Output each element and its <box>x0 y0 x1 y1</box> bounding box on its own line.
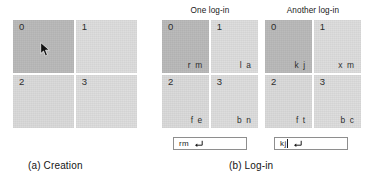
quadrant-code-label: b c <box>341 116 355 125</box>
subfigure-caption-a: (a) Creation <box>28 160 83 171</box>
panel-title-one-login: One log-in <box>162 6 258 15</box>
quadrant-cell-0[interactable]: 0 r m <box>162 20 209 73</box>
quadrant-cell-2[interactable]: 2 <box>13 75 74 128</box>
subfigure-caption-b: (b) Log-in <box>229 160 273 171</box>
quadrant-index-label: 0 <box>19 22 24 33</box>
quadrant-index-label: 3 <box>217 77 222 88</box>
login-input-one[interactable]: rm <box>173 137 247 150</box>
login-input-one-value: rm <box>179 140 189 148</box>
quadrant-cell-1[interactable]: 1 l a <box>211 20 258 73</box>
quadrant-cell-3[interactable]: 3 b n <box>211 75 258 128</box>
enter-key-icon <box>293 140 302 148</box>
quadrant-grid-one-login: 0 r m 1 l a 2 f e 3 b n <box>162 20 258 128</box>
quadrant-code-label: b n <box>237 116 252 125</box>
quadrant-cell-3[interactable]: 3 b c <box>314 75 361 128</box>
text-caret <box>287 139 288 148</box>
enter-key-icon <box>194 140 203 148</box>
quadrant-cell-1[interactable]: 1 <box>76 20 137 73</box>
quadrant-index-label: 1 <box>320 22 325 33</box>
quadrant-code-label: f t <box>296 116 306 125</box>
quadrant-code-label: x m <box>338 61 355 70</box>
quadrant-cell-3[interactable]: 3 <box>76 75 137 128</box>
quadrant-index-label: 2 <box>271 77 276 88</box>
quadrant-code-label: r m <box>188 61 203 70</box>
login-input-two-value: kj <box>280 140 287 148</box>
quadrant-cell-2[interactable]: 2 f t <box>265 75 312 128</box>
login-input-two[interactable]: kj <box>274 137 348 150</box>
quadrant-grid-another-login: 0 k j 1 x m 2 f t 3 b c <box>265 20 361 128</box>
quadrant-index-label: 1 <box>217 22 222 33</box>
quadrant-code-label: f e <box>191 116 204 125</box>
quadrant-index-label: 0 <box>271 22 276 33</box>
quadrant-code-label: k j <box>295 61 307 70</box>
mouse-pointer-icon <box>40 42 51 57</box>
quadrant-index-label: 3 <box>320 77 325 88</box>
quadrant-cell-0[interactable]: 0 k j <box>265 20 312 73</box>
quadrant-index-label: 0 <box>168 22 173 33</box>
quadrant-cell-1[interactable]: 1 x m <box>314 20 361 73</box>
quadrant-index-label: 1 <box>82 22 87 33</box>
quadrant-cell-2[interactable]: 2 f e <box>162 75 209 128</box>
panel-title-another-login: Another log-in <box>265 6 361 15</box>
quadrant-index-label: 3 <box>82 77 87 88</box>
quadrant-grid-creation: 0 1 2 3 <box>13 20 137 128</box>
quadrant-code-label: l a <box>240 61 252 70</box>
quadrant-index-label: 2 <box>19 77 24 88</box>
figure-container: One log-in Another log-in 0 1 2 3 0 r m <box>0 0 379 188</box>
quadrant-index-label: 2 <box>168 77 173 88</box>
